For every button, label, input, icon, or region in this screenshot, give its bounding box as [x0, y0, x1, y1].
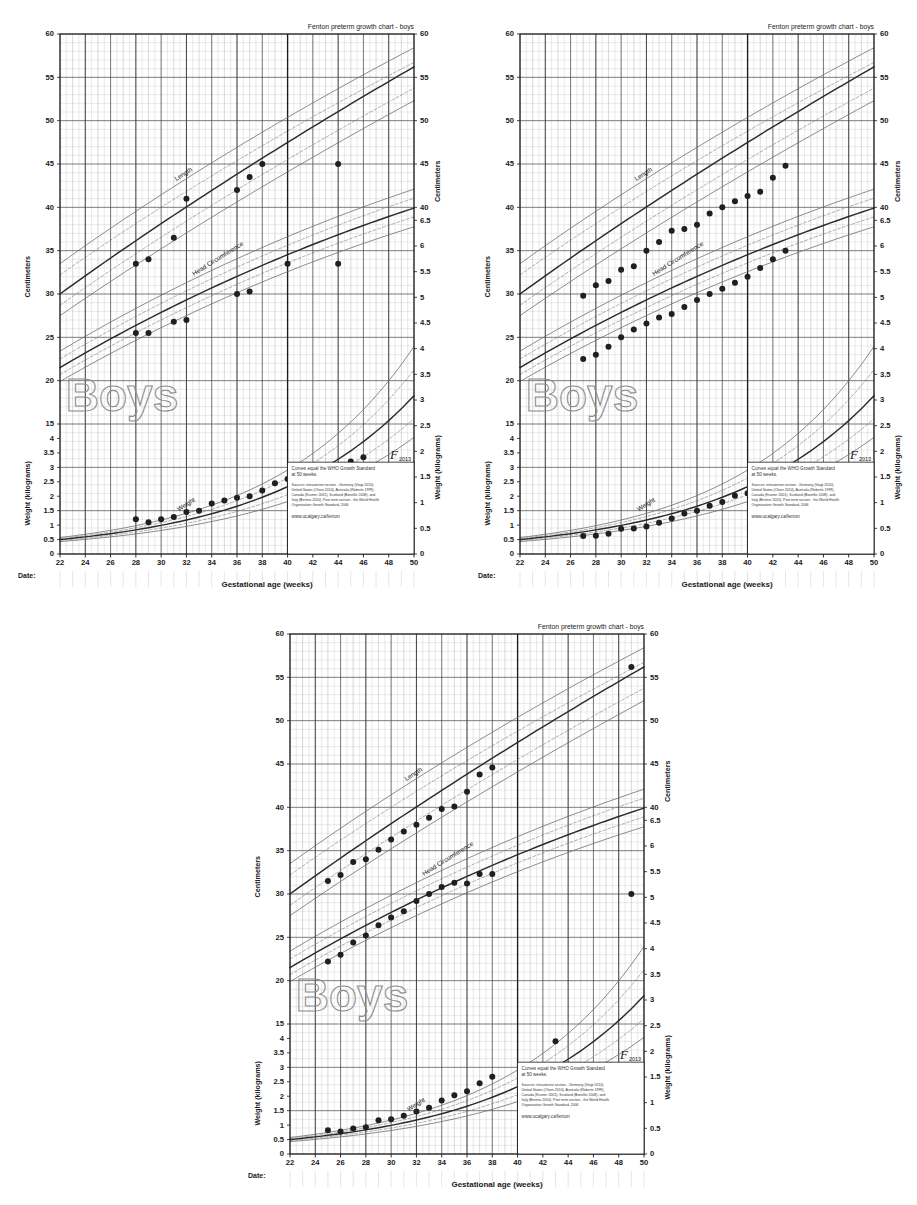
y-right-tick-label-cm: 50	[650, 716, 658, 725]
y-tick-label-cm: 25	[46, 333, 55, 342]
x-tick-label: 50	[870, 558, 878, 567]
source-line-4: Italy (Bertino 2010). Post term section …	[292, 498, 380, 502]
data-point	[451, 1092, 457, 1098]
data-point	[618, 334, 624, 340]
x-tick-label: 36	[463, 1158, 471, 1167]
data-point	[183, 317, 189, 323]
data-point	[631, 263, 637, 269]
source-line-2: United States (Olsen 2010), Australia (R…	[292, 488, 375, 492]
data-point	[234, 291, 240, 297]
y-tick-label-cm: 55	[506, 73, 515, 82]
data-point	[439, 884, 445, 890]
y-axis-title-centimeters: Centimeters	[23, 256, 32, 298]
x-tick-label: 38	[258, 558, 266, 567]
y-right-tick-label-kg: 1.5	[420, 472, 431, 481]
data-point	[338, 1128, 344, 1134]
x-tick-label: 44	[564, 1158, 573, 1167]
y-right-tick-label-kg: 6	[880, 241, 884, 250]
data-point	[745, 274, 751, 280]
data-point	[350, 859, 356, 865]
data-point	[325, 959, 331, 965]
data-point	[247, 288, 253, 294]
data-point	[681, 226, 687, 232]
data-point	[593, 352, 599, 358]
data-point	[285, 261, 291, 267]
data-point	[464, 881, 470, 887]
y-tick-label-kg: 2	[510, 492, 514, 501]
x-tick-label: 46	[819, 558, 827, 567]
y-right-tick-label-kg: 0.5	[650, 1124, 661, 1133]
x-tick-label: 22	[516, 558, 524, 567]
data-point	[464, 789, 470, 795]
data-point	[451, 880, 457, 886]
y-tick-label-kg: 2.5	[273, 1077, 284, 1086]
y-right-tick-label-kg: 1.5	[880, 472, 891, 481]
data-point	[707, 503, 713, 509]
fenton-chart-2: BoysLengthHead CircumferenceWeightFenton…	[474, 8, 914, 593]
y-right-tick-label-kg: 4	[880, 344, 885, 353]
y-right-tick-label-kg: 5	[880, 293, 885, 302]
y-tick-label-kg: 3	[50, 463, 54, 472]
x-tick-label: 48	[614, 1158, 622, 1167]
y-right-tick-label-cm: 60	[420, 29, 428, 38]
data-point	[606, 531, 612, 537]
y-tick-label-cm: 60	[46, 29, 54, 38]
website-link: www.ucalgary.ca/fenton	[522, 1114, 571, 1119]
x-tick-label: 38	[718, 558, 726, 567]
y-right-tick-label-cm: 60	[880, 29, 888, 38]
data-point	[376, 1117, 382, 1123]
boys-watermark: Boys	[526, 369, 638, 421]
data-point	[413, 1109, 419, 1115]
chart-2-svg: BoysLengthHead CircumferenceWeightFenton…	[474, 8, 914, 593]
fenton-logo-mark: F	[389, 447, 399, 462]
x-tick-label: 30	[617, 558, 625, 567]
data-point	[158, 516, 164, 522]
data-point	[757, 265, 763, 271]
data-point	[234, 187, 240, 193]
y-right-tick-label-kg: 2.5	[880, 421, 891, 430]
source-line-5: Organization Growth Standard, 2006	[522, 1103, 579, 1107]
y-tick-label-kg: 2	[280, 1092, 284, 1101]
data-point	[707, 210, 713, 216]
y-right-tick-label-kg: 0	[880, 549, 884, 558]
y-tick-label-cm: 35	[46, 246, 55, 255]
date-label: Date:	[248, 1172, 266, 1179]
x-tick-label: 22	[56, 558, 64, 567]
y-right-tick-label-kg: 5.5	[650, 867, 661, 876]
x-tick-label: 28	[592, 558, 600, 567]
y-tick-label-kg: 3.5	[503, 448, 514, 457]
y-right-tick-label-kg: 2	[880, 447, 884, 456]
axes-layer: Fenton preterm growth chart - boys152025…	[18, 23, 442, 589]
data-point	[631, 327, 637, 333]
y-right-tick-label-kg: 3	[650, 995, 654, 1004]
data-point	[732, 280, 738, 286]
data-point	[606, 278, 612, 284]
y-axis-title-weight: Weight (kilograms)	[483, 460, 492, 525]
y-right-tick-label-kg: 6	[420, 241, 424, 250]
x-tick-label: 40	[283, 558, 291, 567]
data-point	[146, 256, 152, 262]
data-point	[426, 891, 432, 897]
y-tick-label-kg: 2.5	[503, 477, 514, 486]
y-axis-title-weight-right: Weight (kilograms)	[893, 434, 902, 499]
data-point	[643, 524, 649, 530]
y-tick-label-cm: 20	[506, 376, 514, 385]
data-point	[196, 508, 202, 514]
y-right-tick-label-kg: 6	[650, 841, 654, 850]
y-right-tick-label-cm: 45	[420, 159, 429, 168]
y-tick-label-cm: 50	[46, 116, 54, 125]
fenton-logo-mark: F	[849, 447, 859, 462]
chart-3-svg: BoysLengthHead CircumferenceWeightFenton…	[244, 608, 684, 1193]
data-point	[606, 344, 612, 350]
y-right-tick-label-kg: 3.5	[420, 370, 431, 379]
data-point	[350, 940, 356, 946]
source-line-4: Italy (Bertino 2010). Post term section …	[752, 498, 840, 502]
data-point	[221, 498, 227, 504]
note-line-1: Curves equal the WHO Growth Standard	[522, 1066, 606, 1071]
y-tick-label-kg: 1	[50, 521, 55, 530]
source-line-3: Canada (Kramer 2001), Scotland (Bonellie…	[292, 493, 376, 497]
data-point	[694, 508, 700, 514]
x-tick-label: 26	[106, 558, 114, 567]
x-tick-label: 34	[667, 558, 676, 567]
data-point	[133, 330, 139, 336]
